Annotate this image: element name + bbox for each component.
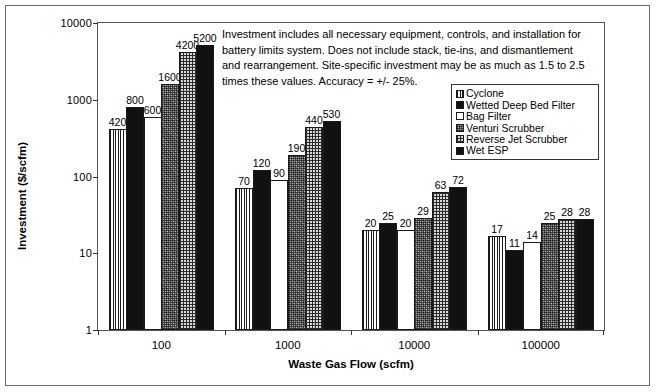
y-axis-label: Investment ($/scfm): [16, 142, 28, 250]
chart-legend: CycloneWetted Deep Bed FilterBag FilterV…: [451, 84, 599, 160]
legend-item: Cyclone: [456, 88, 594, 99]
bar: [432, 192, 450, 330]
legend-swatch-icon: [456, 112, 464, 120]
bar-group: 420800600160042005200: [98, 23, 225, 330]
y-axis-tick-label: 1000: [67, 94, 92, 106]
y-axis-tick-label: 1: [86, 324, 92, 336]
legend-item-label: Bag Filter: [466, 111, 511, 122]
bar: [179, 52, 197, 330]
legend-item: Venturi Scrubber: [456, 122, 594, 133]
bar-value-label: 72: [452, 175, 464, 186]
legend-item: Reverse Jet Scrubber: [456, 134, 594, 145]
legend-swatch-icon: [456, 147, 464, 155]
x-axis-tick-label: 10000: [398, 339, 430, 351]
bar: [288, 155, 306, 330]
bar-value-label: 90: [273, 168, 285, 179]
y-axis-tick-label: 100: [73, 171, 92, 183]
bar: [323, 121, 341, 330]
bar: [161, 84, 179, 330]
legend-item-label: Venturi Scrubber: [466, 123, 544, 134]
y-axis-tick-label: 10: [79, 247, 92, 259]
bar: [362, 230, 380, 330]
bar: [109, 129, 127, 330]
bar-value-label: 530: [323, 109, 341, 120]
x-axis-label: Waste Gas Flow (scfm): [97, 358, 605, 370]
legend-item: Wetted Deep Bed Filter: [456, 99, 594, 110]
bar: [235, 188, 253, 330]
bar: [449, 187, 467, 330]
legend-item-label: Wetted Deep Bed Filter: [466, 100, 575, 111]
bar: [379, 223, 397, 330]
bar: [414, 218, 432, 330]
bar-value-label: 28: [579, 207, 591, 218]
bar: [196, 45, 214, 330]
bar: [397, 230, 415, 330]
bar-value-label: 800: [126, 95, 144, 106]
bar-value-label: 17: [491, 224, 503, 235]
bar: [576, 219, 594, 330]
chart-figure: Investment ($/scfm) 11010010001000042080…: [0, 0, 656, 392]
legend-item: Bag Filter: [456, 111, 594, 122]
bar-value-label: 190: [288, 143, 306, 154]
legend-swatch-icon: [456, 101, 464, 109]
x-axis-tick-mark: [351, 330, 352, 335]
bar: [126, 107, 144, 330]
legend-item: Wet ESP: [456, 145, 594, 156]
legend-swatch-icon: [456, 135, 464, 143]
bar: [558, 219, 576, 330]
bar: [144, 117, 162, 330]
bar-value-label: 600: [144, 105, 162, 116]
annotation-text: Investment includes all necessary equipm…: [222, 27, 592, 89]
bar: [305, 127, 323, 330]
legend-item-label: Wet ESP: [466, 145, 508, 156]
bar-value-label: 29: [417, 206, 429, 217]
bar: [270, 180, 288, 330]
x-axis-tick-mark: [98, 330, 99, 335]
bar-value-label: 25: [544, 211, 556, 222]
bar-value-label: 25: [382, 211, 394, 222]
x-axis-tick-mark: [225, 330, 226, 335]
bar: [253, 170, 271, 330]
bar-value-label: 420: [109, 117, 127, 128]
y-axis-tick-label: 10000: [60, 17, 92, 29]
x-axis-tick-mark: [603, 330, 604, 335]
bar: [488, 236, 506, 330]
bar: [541, 223, 559, 330]
x-axis-tick-label: 1000: [275, 339, 301, 351]
bar-value-label: 70: [238, 176, 250, 187]
bar-value-label: 5200: [193, 33, 216, 44]
bar: [506, 250, 524, 330]
bar-value-label: 20: [365, 218, 377, 229]
bar-value-label: 120: [253, 158, 271, 169]
x-axis-tick-label: 100: [152, 339, 171, 351]
bar-value-label: 11: [509, 238, 520, 249]
bar-value-label: 440: [305, 115, 323, 126]
bar-value-label: 20: [400, 218, 412, 229]
legend-item-label: Cyclone: [466, 88, 504, 99]
bar-value-label: 63: [435, 180, 447, 191]
bar-value-label: 14: [526, 230, 538, 241]
bar-value-label: 28: [561, 207, 573, 218]
x-axis-tick-label: 100000: [522, 339, 560, 351]
legend-item-label: Reverse Jet Scrubber: [466, 134, 568, 145]
legend-swatch-icon: [456, 124, 464, 132]
x-axis-tick-mark: [478, 330, 479, 335]
legend-swatch-icon: [456, 90, 464, 98]
bar: [523, 242, 541, 330]
